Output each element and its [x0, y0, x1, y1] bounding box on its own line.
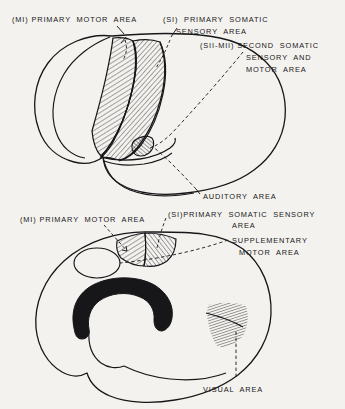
- label-supplementary-motor-line2: MOTOR AREA: [239, 248, 300, 257]
- label-second-somatic-line1: (SII-MII) SECOND SOMATIC: [200, 41, 319, 50]
- primary-somatic-sensory-area-medial: [144, 233, 176, 266]
- label-primary-somatic-sensory-medial-line1: (SI)PRIMARY SOMATIC SENSORY: [168, 210, 315, 219]
- label-primary-somatic-sensory-medial-line2: AREA: [232, 221, 256, 230]
- supplementary-motor-area: [74, 248, 120, 278]
- label-primary-somatic-sensory-lateral-line1: (SI) PRIMARY SOMATIC: [163, 15, 268, 24]
- label-supplementary-motor-line1: SUPPLEMENTARY: [232, 236, 308, 245]
- primary-motor-area-medial: [117, 233, 146, 266]
- label-auditory-area: AUDITORY AREA: [203, 192, 277, 201]
- visual-area: [207, 303, 247, 347]
- lateral-view-group: (MI) PRIMARY MOTOR AREA (SI) PRIMARY SOM…: [12, 15, 319, 201]
- label-second-somatic-line3: MOTOR AREA: [246, 65, 307, 74]
- medial-view-group: (MI) PRIMARY MOTOR AREA (SI)PRIMARY SOMA…: [20, 210, 315, 402]
- brainstem-notch-curve: [89, 331, 124, 368]
- label-primary-motor-medial: (MI) PRIMARY MOTOR AREA: [20, 215, 145, 224]
- cerebellum-boundary: [124, 366, 226, 380]
- label-second-somatic-line2: SENSORY AND: [246, 53, 311, 62]
- label-primary-somatic-sensory-lateral-line2: SENSORY AREA: [176, 27, 247, 36]
- corpus-callosum: [73, 278, 172, 339]
- brain-cortical-areas-diagram: (MI) PRIMARY MOTOR AREA (SI) PRIMARY SOM…: [0, 0, 345, 409]
- leader-dash-auditory: [152, 146, 196, 189]
- label-visual-area: VISUAL AREA: [203, 385, 263, 394]
- label-primary-motor-lateral: (MI) PRIMARY MOTOR AREA: [12, 15, 137, 24]
